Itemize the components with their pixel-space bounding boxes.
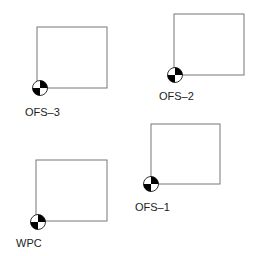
workpiece-box — [37, 27, 107, 88]
origin-marker-icon — [33, 81, 48, 96]
frame-label-ofs2: OFS–2 — [159, 91, 194, 102]
frame-label-ofs1: OFS–1 — [135, 202, 170, 213]
origin-marker-icon — [168, 68, 183, 83]
frame-label-wpc: WPC — [16, 238, 42, 249]
workpiece-box — [151, 124, 220, 184]
origin-marker-icon — [144, 177, 159, 192]
origin-marker-icon — [31, 215, 46, 230]
frame-wpc — [31, 160, 108, 230]
frame-ofs3 — [33, 27, 108, 96]
frame-ofs2 — [168, 14, 245, 83]
workpiece-box — [174, 14, 244, 75]
frame-ofs1 — [144, 124, 221, 192]
frame-label-ofs3: OFS–3 — [25, 107, 60, 118]
coordinate-frames-diagram — [0, 0, 256, 256]
workpiece-box — [36, 160, 107, 221]
